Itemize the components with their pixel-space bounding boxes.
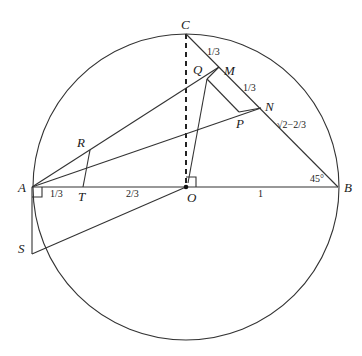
length-cm: 1/3 bbox=[207, 46, 220, 57]
length-nb: √2−2/3 bbox=[277, 119, 306, 130]
segment-an bbox=[32, 108, 261, 187]
segment-qp bbox=[207, 79, 239, 112]
label-n: N bbox=[264, 99, 275, 114]
length-to: 2/3 bbox=[126, 188, 139, 199]
label-s: S bbox=[18, 241, 25, 256]
label-a: A bbox=[17, 180, 26, 195]
label-t: T bbox=[78, 189, 86, 204]
point-o-dot bbox=[184, 185, 189, 190]
segment-qo bbox=[188, 79, 207, 183]
length-mn: 1/3 bbox=[243, 82, 256, 93]
label-c: C bbox=[181, 17, 190, 32]
label-b: B bbox=[344, 180, 352, 195]
length-ob: 1 bbox=[258, 188, 263, 199]
geometry-diagram: C M Q N P R A T O B S 1/3 1/3 √2−2/3 1/3… bbox=[0, 0, 362, 356]
length-at: 1/3 bbox=[50, 188, 63, 199]
label-r: R bbox=[76, 135, 85, 150]
angle-b-label: 45° bbox=[310, 173, 324, 184]
label-m: M bbox=[223, 63, 236, 78]
label-q: Q bbox=[193, 62, 203, 77]
label-p: P bbox=[235, 116, 244, 131]
label-o: O bbox=[187, 190, 197, 205]
